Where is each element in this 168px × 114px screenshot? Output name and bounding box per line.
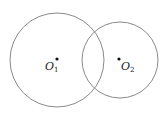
- center-point-o1: [55, 57, 58, 60]
- label-o1: O1: [45, 60, 59, 74]
- label-o2: O2: [121, 60, 135, 74]
- two-circles-diagram: O1 O2: [0, 0, 168, 114]
